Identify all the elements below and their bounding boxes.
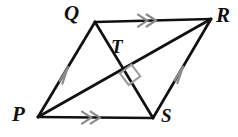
side-PS [38,117,153,118]
vertex-label-p: P [12,104,25,125]
vertex-label-r: R [216,5,230,26]
diagonal-PR [38,19,211,117]
vertex-label-q: Q [64,3,79,24]
vertex-label-t: T [111,37,123,56]
geometry-canvas [0,0,238,137]
geometry-figure: Q R T P S [0,0,238,137]
vertex-label-s: S [161,106,172,125]
